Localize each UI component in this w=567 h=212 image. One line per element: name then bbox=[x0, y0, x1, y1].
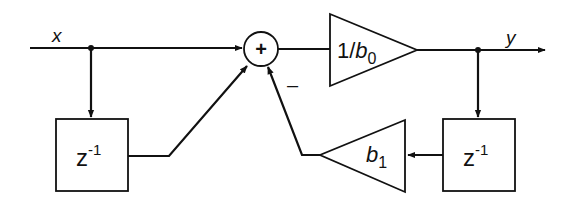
feedback-gain-label: b1 bbox=[366, 142, 387, 171]
output-branch-dot bbox=[475, 47, 481, 53]
delay-left-label: z-1 bbox=[76, 141, 101, 171]
feedback-gain-triangle bbox=[320, 120, 405, 192]
block-diagram: x y + – 1/b0 b1 z-1 z-1 bbox=[0, 0, 567, 212]
delay-right-label: z-1 bbox=[463, 141, 488, 171]
output-label: y bbox=[504, 27, 517, 48]
forward-gain-label: 1/b0 bbox=[337, 38, 377, 67]
input-branch-dot bbox=[88, 45, 94, 51]
delay-left-output-line bbox=[128, 66, 247, 156]
negative-sign: – bbox=[287, 74, 299, 96]
summer-plus: + bbox=[255, 38, 267, 60]
input-label: x bbox=[51, 25, 63, 46]
